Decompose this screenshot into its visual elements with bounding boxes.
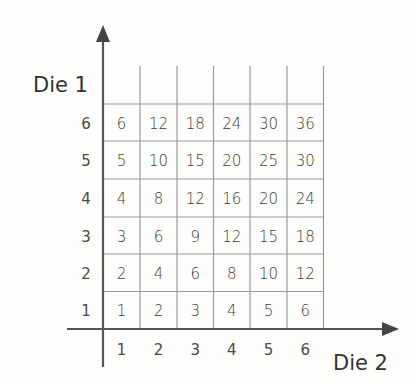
y-axis-arrow-icon xyxy=(96,25,110,42)
grid-cell: 4 xyxy=(154,265,164,283)
grid-cell: 18 xyxy=(186,115,205,133)
grid-cell: 24 xyxy=(296,190,315,208)
grid-cell: 25 xyxy=(259,152,278,170)
y-axis-tick-label: 5 xyxy=(81,152,91,170)
grid-cell: 1 xyxy=(117,302,127,320)
dice-product-diagram: Die 1 Die 2 654321 123456 61218243036510… xyxy=(0,0,414,384)
x-axis-ticks: 123456 xyxy=(117,341,310,359)
y-axis-title: Die 1 xyxy=(33,73,88,97)
grid-cell: 6 xyxy=(190,265,200,283)
grid-cell: 6 xyxy=(154,228,164,246)
grid-cell: 30 xyxy=(296,152,315,170)
grid-cell: 3 xyxy=(117,228,127,246)
y-axis-ticks: 654321 xyxy=(81,115,91,321)
x-axis-tick-label: 6 xyxy=(300,341,310,359)
grid-cell: 12 xyxy=(149,115,168,133)
grid-cell: 6 xyxy=(300,302,310,320)
grid-cell: 6 xyxy=(117,115,127,133)
y-axis-tick-label: 2 xyxy=(81,265,91,283)
grid-cell: 8 xyxy=(227,265,237,283)
grid-cell: 30 xyxy=(259,115,278,133)
grid-cell: 15 xyxy=(259,228,278,246)
grid-cell: 20 xyxy=(222,152,241,170)
x-axis-tick-label: 5 xyxy=(264,341,274,359)
grid-cell: 4 xyxy=(227,302,237,320)
grid-cell: 4 xyxy=(117,190,127,208)
grid-cell: 12 xyxy=(296,265,315,283)
grid-cell: 18 xyxy=(296,228,315,246)
grid-cell: 24 xyxy=(222,115,241,133)
grid-cell: 8 xyxy=(154,190,164,208)
grid-cell: 12 xyxy=(222,228,241,246)
grid-cell: 36 xyxy=(296,115,315,133)
grid-cell: 10 xyxy=(149,152,168,170)
product-grid xyxy=(103,66,324,329)
grid-cell: 5 xyxy=(264,302,274,320)
grid-cell: 16 xyxy=(222,190,241,208)
y-axis-tick-label: 1 xyxy=(81,302,91,320)
grid-cell: 9 xyxy=(190,228,200,246)
grid-cell: 20 xyxy=(259,190,278,208)
grid-cell: 12 xyxy=(186,190,205,208)
grid-cell: 15 xyxy=(186,152,205,170)
grid-cell: 2 xyxy=(117,265,127,283)
x-axis-tick-label: 1 xyxy=(117,341,127,359)
x-axis-tick-label: 3 xyxy=(190,341,200,359)
y-axis-tick-label: 4 xyxy=(81,190,91,208)
x-axis-tick-label: 4 xyxy=(227,341,237,359)
x-axis-tick-label: 2 xyxy=(154,341,164,359)
x-axis-title: Die 2 xyxy=(333,351,388,375)
grid-cell: 2 xyxy=(154,302,164,320)
y-axis-tick-label: 6 xyxy=(81,115,91,133)
y-axis-tick-label: 3 xyxy=(81,228,91,246)
x-axis-arrow-icon xyxy=(382,322,399,336)
grid-cell: 5 xyxy=(117,152,127,170)
grid-cell: 3 xyxy=(190,302,200,320)
grid-cell: 10 xyxy=(259,265,278,283)
